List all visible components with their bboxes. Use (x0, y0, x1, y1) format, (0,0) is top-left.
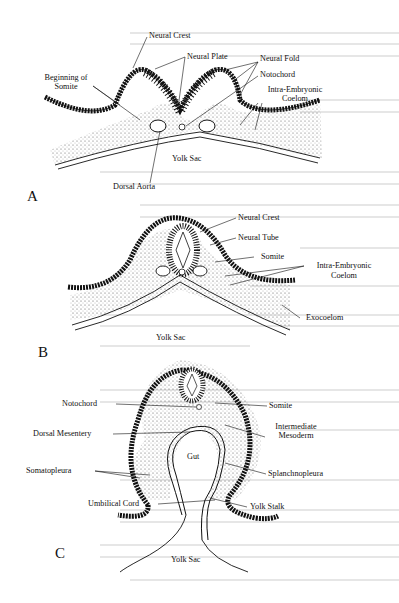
label-b-coelom: Coelom (304, 272, 384, 280)
label-a-intra-embryonic: Intra-Embryonic (255, 86, 335, 94)
label-c-splanchnopleura: Splanchnopleura (268, 470, 323, 478)
label-a-notochord: Notochord (260, 71, 295, 79)
label-c-yolk-sac: Yolk Sac (171, 556, 200, 564)
label-c-notochord: Notochord (62, 400, 97, 408)
label-b-intra-embryonic: Intra-Embryonic (304, 262, 384, 270)
label-c-dorsal-mesentery: Dorsal Mesentery (33, 430, 91, 438)
label-a-coelom: Coelom (255, 95, 335, 103)
label-b-neural-crest: Neural Crest (238, 214, 280, 222)
panel-label-a: A (27, 188, 38, 205)
label-a-neural-plate: Neural Plate (187, 53, 228, 61)
panel-label-b: B (38, 344, 48, 361)
label-c-umbilical-cord: Umbilical Cord (88, 500, 139, 508)
label-c-intermediate: Intermediate (266, 423, 326, 431)
label-c-yolk-stalk: Yolk Stalk (250, 503, 284, 511)
label-c-gut: Gut (187, 453, 199, 461)
label-a-neural-fold: Neural Fold (260, 55, 299, 63)
label-a-dorsal-aorta: Dorsal Aorta (113, 183, 155, 191)
label-b-exocoelom: Exocoelom (306, 314, 343, 322)
label-a-beginning-of: Beginning of (38, 74, 94, 82)
label-b-somite: Somite (261, 253, 284, 261)
label-b-neural-tube: Neural Tube (238, 234, 279, 242)
label-c-mesoderm: Mesoderm (266, 432, 326, 440)
label-a-somite: Somite (38, 83, 94, 91)
label-a-neural-crest: Neural Crest (149, 32, 191, 40)
label-c-somite: Somite (269, 402, 292, 410)
label-a-yolk-sac: Yolk Sac (172, 155, 201, 163)
label-b-yolk-sac: Yolk Sac (156, 334, 185, 342)
label-c-somatopleura: Somatopleura (26, 467, 71, 475)
panel-label-c: C (55, 545, 65, 562)
